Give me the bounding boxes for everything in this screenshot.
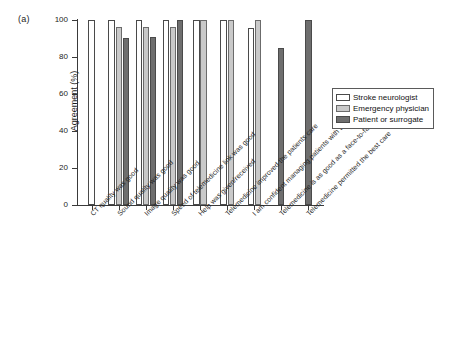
- bar: [88, 20, 94, 205]
- bar: [136, 20, 142, 205]
- bar: [248, 28, 254, 205]
- legend-label: Stroke neurologist: [353, 93, 417, 102]
- legend-item: Stroke neurologist: [336, 92, 429, 103]
- bar: [163, 20, 169, 205]
- y-axis-tick-label: 0: [38, 201, 68, 209]
- legend: Stroke neurologist Emergency physician P…: [332, 88, 434, 129]
- legend-swatch-patient-or-surrogate: [336, 116, 350, 123]
- y-axis-tick: [72, 205, 77, 206]
- legend-label: Emergency physician: [353, 104, 429, 113]
- legend-label: Patient or surrogate: [353, 115, 423, 124]
- bar: [108, 20, 114, 205]
- y-axis-tick: [72, 168, 77, 169]
- y-axis-tick-label: 60: [38, 90, 68, 98]
- legend-item: Emergency physician: [336, 103, 429, 114]
- panel-label: (a): [18, 14, 30, 24]
- legend-swatch-stroke-neurologist: [336, 94, 350, 101]
- legend-item: Patient or surrogate: [336, 114, 429, 125]
- figure-panel-a: (a) 020406080100 Agreement (%) CT qualit…: [0, 0, 450, 342]
- y-axis-tick-label: 100: [38, 16, 68, 24]
- y-axis-tick: [72, 20, 77, 21]
- y-axis-tick-label: 20: [38, 164, 68, 172]
- bar: [305, 20, 311, 205]
- bar: [193, 20, 199, 205]
- y-axis-tick-label: 40: [38, 127, 68, 135]
- legend-swatch-emergency-physician: [336, 105, 350, 112]
- y-axis-tick-label: 80: [38, 53, 68, 61]
- bar: [220, 20, 226, 205]
